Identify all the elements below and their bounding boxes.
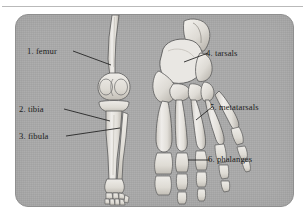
label-tibia: 2. tibia [19,105,44,114]
label-phalanges: 6. phalanges [208,155,252,164]
tarsal-bones [153,19,214,103]
figure-root: 1. femur 2. tibia 3. fibula 4. tarsals 5… [0,0,305,217]
femur-bone [98,15,130,100]
knee-joint [99,101,129,113]
leader-line-tibia [64,109,110,121]
label-metatarsals: 5. metatarsals [210,103,259,112]
label-tarsals: 4. tarsals [206,49,238,58]
label-femur: 1. femur [27,47,57,56]
top-divider-rule [2,6,303,7]
leader-line-femur [73,51,111,65]
leg-bone-group [98,15,130,205]
label-fibula: 3. fibula [19,132,49,141]
leg-ankle-and-foot [105,179,129,205]
